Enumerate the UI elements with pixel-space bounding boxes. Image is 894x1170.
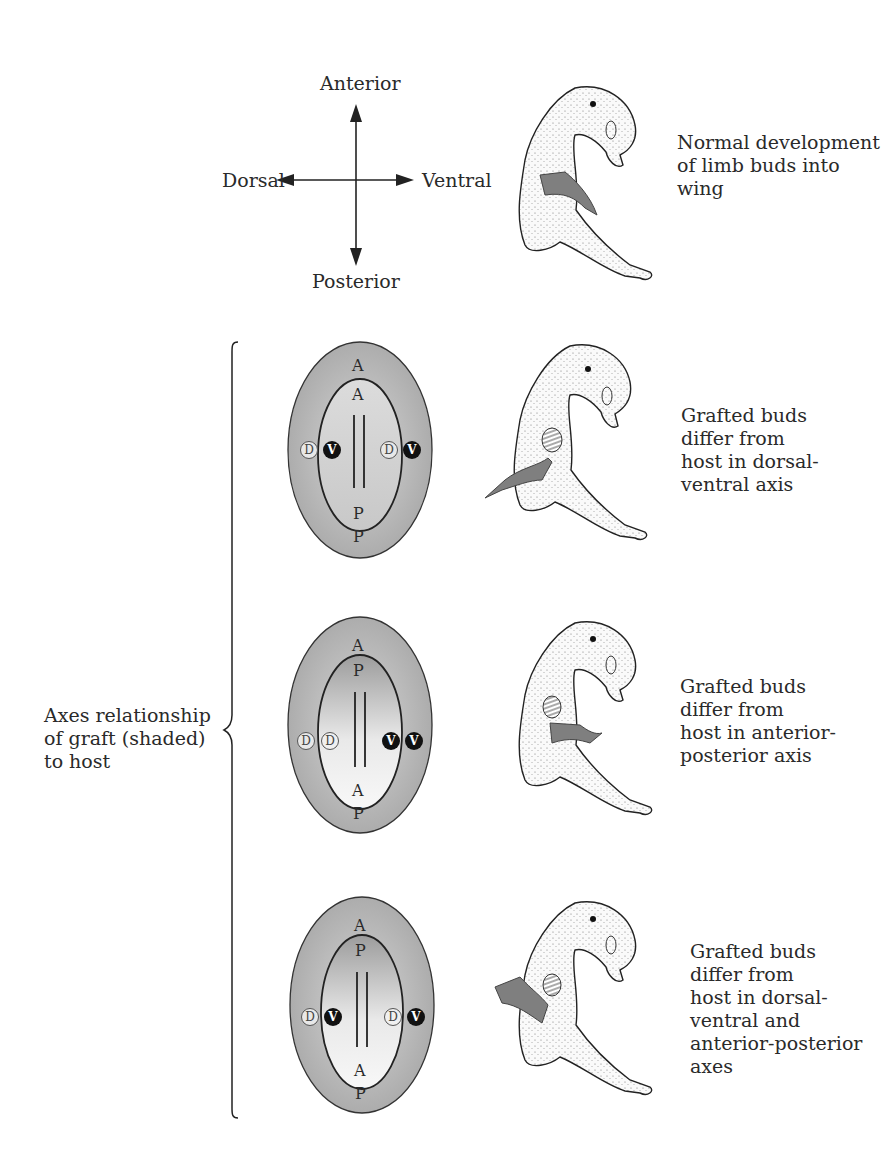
inner-bottom-label: A	[352, 781, 364, 800]
outer-bottom-label: P	[353, 804, 364, 823]
caption-line: Grafted buds	[681, 404, 819, 427]
outer-bottom-label: P	[353, 527, 364, 546]
bracket-label-line: of graft (shaded)	[44, 727, 211, 750]
dorsal-marker-open: D	[380, 441, 398, 459]
outer-bottom-label: P	[355, 1084, 366, 1103]
embryo-graft-dv-ap	[480, 895, 660, 1119]
bracket-label-line: to host	[44, 750, 211, 773]
axis-compass: Anterior Posterior Dorsal Ventral	[230, 70, 490, 300]
embryo-graft-ap	[480, 615, 660, 839]
caption-line: differ from	[680, 698, 836, 721]
inner-top-label: A	[352, 385, 364, 404]
caption-line: differ from	[690, 963, 862, 986]
ventral-marker-filled: V	[324, 1008, 342, 1026]
caption-line: axes	[690, 1055, 862, 1078]
embryo-normal	[480, 80, 660, 304]
ventral-marker-filled: V	[382, 732, 400, 750]
caption-line: of limb buds into	[677, 154, 880, 177]
caption-line: differ from	[681, 427, 819, 450]
ventral-marker-filled: V	[407, 1008, 425, 1026]
compass-dorsal-label: Dorsal	[222, 169, 285, 191]
inner-bottom-label: P	[353, 504, 364, 523]
outer-top-label: A	[354, 916, 366, 935]
bracket-label: Axes relationship of graft (shaded) to h…	[44, 704, 211, 773]
graft-diagram-ap: A P A P D D V V	[285, 615, 435, 839]
chick-embryo-icon	[480, 895, 660, 1115]
dorsal-marker-open: D	[384, 1008, 402, 1026]
caption-line: Grafted buds	[690, 940, 862, 963]
chick-embryo-icon	[480, 615, 660, 835]
dorsal-marker-open: D	[321, 732, 339, 750]
caption-line: host in anterior-	[680, 721, 836, 744]
caption-graft-dv-ap: Grafted buds differ from host in dorsal-…	[690, 940, 862, 1078]
bracket	[222, 340, 242, 1124]
chick-embryo-icon	[480, 80, 660, 300]
caption-line: Normal development	[677, 131, 880, 154]
inner-top-label: P	[355, 941, 366, 960]
embryo-graft-dv	[470, 340, 660, 564]
caption-graft-dv: Grafted buds differ from host in dorsal-…	[681, 404, 819, 496]
ventral-marker-filled: V	[403, 441, 421, 459]
caption-line: host in dorsal-	[681, 450, 819, 473]
dorsal-marker-open: D	[300, 441, 318, 459]
caption-line: posterior axis	[680, 744, 836, 767]
compass-anterior-label: Anterior	[320, 72, 401, 94]
caption-line: anterior-posterior	[690, 1032, 862, 1055]
caption-line: ventral axis	[681, 473, 819, 496]
inner-bottom-label: A	[354, 1061, 366, 1080]
curly-brace-icon	[222, 340, 242, 1120]
ventral-marker-filled: V	[323, 441, 341, 459]
caption-graft-ap: Grafted buds differ from host in anterio…	[680, 675, 836, 767]
outer-top-label: A	[352, 636, 364, 655]
dorsal-marker-open: D	[297, 732, 315, 750]
graft-diagram-dv-ap: A P A P D V D V	[287, 895, 437, 1119]
inner-top-label: P	[353, 661, 364, 680]
chick-embryo-icon	[470, 340, 660, 560]
outer-top-label: A	[352, 356, 364, 375]
caption-line: host in dorsal-	[690, 986, 862, 1009]
caption-line: wing	[677, 177, 880, 200]
graft-diagram-dv: A A P P D V D V	[285, 340, 435, 564]
caption-normal: Normal development of limb buds into win…	[677, 131, 880, 200]
compass-posterior-label: Posterior	[312, 270, 400, 292]
dorsal-marker-open: D	[301, 1008, 319, 1026]
ventral-marker-filled: V	[405, 732, 423, 750]
caption-line: ventral and	[690, 1009, 862, 1032]
bracket-label-line: Axes relationship	[44, 704, 211, 727]
caption-line: Grafted buds	[680, 675, 836, 698]
